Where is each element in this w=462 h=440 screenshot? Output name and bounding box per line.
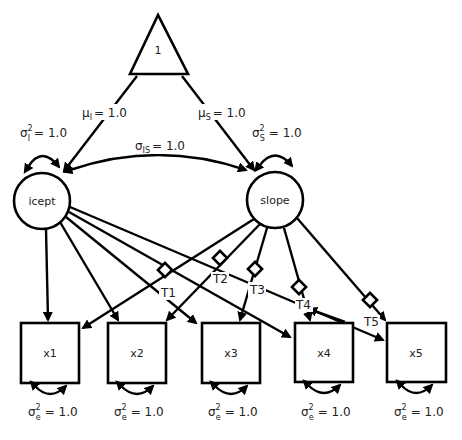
svg-text:T1: T1 (160, 286, 176, 300)
svg-text:T4: T4 (295, 298, 311, 312)
residual-loop-x2 (121, 386, 153, 394)
observed-node-x3: x3 σ2e= 1.0 (202, 323, 260, 422)
latent-node-icept: icept (14, 173, 70, 229)
definition-diamond-t2 (213, 251, 227, 265)
definition-diamond-t1 (158, 263, 172, 277)
svg-text:icept: icept (28, 195, 56, 208)
residual-label-x5: σ2e= 1.0 (394, 403, 444, 422)
t5-label: T5 (362, 315, 380, 329)
residual-label-x4: σ2e= 1.0 (301, 403, 351, 422)
residual-label-x2: σ2e= 1.0 (114, 403, 164, 422)
svg-text:T2: T2 (212, 272, 228, 286)
variance-label-icept: σ2I= 1.0 (20, 124, 67, 143)
residual-label-x1: σ2e= 1.0 (28, 403, 78, 422)
covariance-path (70, 155, 246, 170)
residual-loop-x1 (35, 386, 66, 394)
definition-diamond-t3 (248, 262, 262, 276)
svg-text:σIS= 1.0: σIS= 1.0 (135, 139, 185, 155)
covariance-label: σIS= 1.0 (133, 138, 185, 155)
t4-label: T4 (295, 298, 313, 312)
svg-text:x5: x5 (409, 347, 423, 360)
svg-text:x3: x3 (224, 347, 238, 360)
observed-node-x4: x4 σ2e= 1.0 (295, 323, 353, 422)
constant-label: 1 (155, 44, 162, 57)
svg-text:x1: x1 (43, 347, 57, 360)
residual-loop-x5 (401, 385, 432, 393)
svg-text:slope: slope (260, 194, 289, 207)
t3-label: T3 (248, 282, 266, 297)
definition-diamond-t4 (292, 280, 306, 294)
observed-node-x5: x5 σ2e= 1.0 (387, 323, 446, 422)
constant-node: 1 (130, 15, 188, 74)
growth-model-diagram: 1 μI= 1.0 μS= 1.0 σIS= 1.0 σ2I= 1.0 σ2S=… (0, 0, 462, 440)
loading-icept-x1 (46, 229, 48, 320)
svg-text:T5: T5 (363, 315, 379, 329)
variance-loop-icept (28, 156, 59, 167)
svg-text:μI= 1.0: μI= 1.0 (82, 106, 127, 122)
svg-text:x4: x4 (317, 347, 331, 360)
svg-text:T3: T3 (249, 283, 265, 297)
svg-text:x2: x2 (130, 347, 144, 360)
observed-node-x2: x2 σ2e= 1.0 (108, 323, 166, 422)
mean-label-icept: μI= 1.0 (80, 104, 128, 122)
variance-label-slope: σ2S= 1.0 (252, 124, 302, 143)
mean-path-slope (182, 76, 254, 170)
t4-arrow (309, 309, 345, 322)
observed-node-x1: x1 σ2e= 1.0 (21, 323, 79, 422)
svg-text:μS= 1.0: μS= 1.0 (198, 106, 246, 122)
residual-loop-x4 (308, 385, 340, 393)
t2-label: T2 (211, 272, 229, 286)
mean-label-slope: μS= 1.0 (196, 104, 246, 122)
residual-loop-x3 (215, 386, 247, 394)
variance-loop-slope (259, 156, 292, 167)
t1-label: T1 (159, 286, 177, 300)
latent-node-slope: slope (247, 172, 303, 228)
residual-label-x3: σ2e= 1.0 (208, 403, 258, 422)
